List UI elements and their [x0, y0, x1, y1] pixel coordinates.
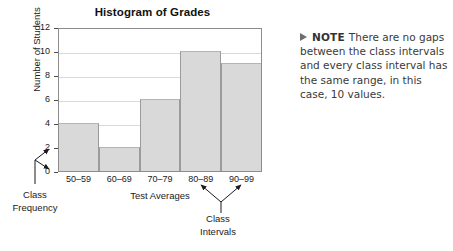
y-tick-label: 10 [24, 46, 50, 56]
histogram-bar [59, 123, 99, 171]
class-intervals-annotation: Class Intervals [183, 212, 253, 238]
class-intervals-arrows [190, 183, 252, 215]
x-tick-label: 50–59 [58, 174, 99, 184]
class-frequency-line-1: Class [2, 188, 68, 201]
note-label: NOTE [312, 31, 345, 43]
chart-title: Histogram of Grades [40, 6, 265, 18]
note-body: NOTEThere are no gaps between the class … [300, 30, 450, 101]
bar-series [59, 29, 261, 171]
histogram-bar [180, 51, 221, 171]
y-tick-label: 4 [24, 118, 50, 128]
histogram-bar [221, 63, 261, 171]
class-intervals-line-2: Intervals [183, 225, 253, 238]
class-frequency-annotation: Class Frequency [2, 188, 68, 214]
y-tick-label: 6 [24, 94, 50, 104]
x-tick-label: 70–79 [140, 174, 181, 184]
y-tick-label: 12 [24, 22, 50, 32]
class-frequency-arrows [18, 140, 64, 190]
histogram-bar [99, 147, 140, 171]
class-frequency-line-2: Frequency [2, 201, 68, 214]
class-intervals-line-1: Class [183, 212, 253, 225]
histogram-bar [140, 99, 181, 171]
plot-area [58, 28, 262, 172]
note-callout: NOTEThere are no gaps between the class … [300, 30, 450, 101]
histogram-chart: Histogram of Grades Number of Students 0… [0, 0, 290, 251]
x-tick-label: 60–69 [99, 174, 140, 184]
figure-root: Histogram of Grades Number of Students 0… [0, 0, 453, 251]
triangle-right-icon [300, 33, 307, 41]
y-tick-label: 8 [24, 70, 50, 80]
